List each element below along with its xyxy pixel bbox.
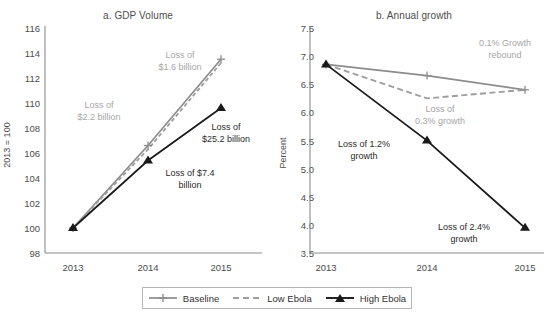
panel-a-annotation-7-4-billion: Loss of $7.4 billion (148, 168, 232, 191)
legend-item-high-ebola[interactable]: High Ebola (325, 293, 406, 304)
legend-label-baseline: Baseline (183, 293, 219, 304)
panel-b-y-axis-label: Percent (278, 123, 288, 183)
panel-b-annotation-1-2-growth: Loss of 1.2% growth (320, 139, 408, 162)
legend-swatch-high-ebola-icon (325, 293, 355, 303)
chart-panel-gdp-volume: a. GDP Volume 2013 = 100 116 114 112 110… (0, 0, 276, 285)
legend-label-low-ebola: Low Ebola (267, 293, 311, 304)
legend-item-low-ebola[interactable]: Low Ebola (232, 293, 311, 304)
panel-b-annotation-growth-rebound: 0.1% Growth rebound (461, 38, 549, 61)
panel-b-annotation-0-3-growth: Loss of 0.3% growth (394, 104, 486, 127)
panel-b-annotation-2-4-growth: Loss of 2.4% growth (420, 222, 508, 245)
panel-a-annotation-25-2-billion: Loss of $25.2 billion (185, 122, 267, 145)
chart-panel-annual-growth: b. Annual growth 7.5 7.0 6.5 6.0 5.5 5.0… (276, 0, 552, 285)
legend-label-high-ebola: High Ebola (360, 293, 406, 304)
legend-swatch-low-ebola-icon (232, 293, 262, 303)
legend-item-baseline[interactable]: Baseline (148, 293, 219, 304)
panel-a-annotation-1-6-billion: Loss of $1.6 billion (143, 50, 217, 73)
panel-a-annotation-2-2-billion: Loss of $2.2 billion (62, 100, 136, 123)
panel-b-baseline-markers (322, 60, 529, 93)
chart-legend: Baseline Low Ebola High Ebola (142, 287, 412, 309)
legend-swatch-baseline-icon (148, 293, 178, 303)
panel-b-series-low-ebola (326, 64, 525, 98)
figure-root: a. GDP Volume 2013 = 100 116 114 112 110… (0, 0, 552, 318)
